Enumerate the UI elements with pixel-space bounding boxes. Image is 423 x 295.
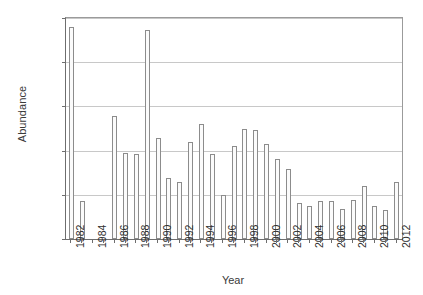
x-tick-label: 2012: [400, 225, 412, 248]
bar: [394, 182, 399, 239]
y-axis-title: Abundance: [16, 54, 28, 174]
x-tick-mark: [385, 239, 386, 243]
x-tick-label: 2002: [291, 225, 303, 248]
y-tick-mark: [62, 18, 66, 19]
x-tick-mark: [233, 239, 234, 243]
x-tick-mark: [320, 239, 321, 243]
x-tick-mark: [146, 239, 147, 243]
bar: [177, 182, 182, 239]
x-tick-mark: [81, 239, 82, 243]
x-tick-mark: [103, 239, 104, 243]
x-axis-title: Year: [65, 274, 401, 286]
x-tick-mark: [92, 239, 93, 243]
bar: [112, 116, 117, 239]
x-tick-mark: [114, 239, 115, 243]
x-tick-mark: [374, 239, 375, 243]
bar: [307, 206, 312, 239]
x-tick-mark: [157, 239, 158, 243]
bar: [156, 138, 161, 239]
x-tick-label: 1996: [226, 225, 238, 248]
x-tick-mark: [352, 239, 353, 243]
x-tick-mark: [244, 239, 245, 243]
bar: [372, 206, 377, 239]
bar: [264, 144, 269, 239]
x-tick-mark: [276, 239, 277, 243]
y-tick-mark: [62, 195, 66, 196]
x-tick-mark: [331, 239, 332, 243]
x-tick-label: 2004: [313, 225, 325, 248]
x-tick-mark: [190, 239, 191, 243]
x-tick-mark: [298, 239, 299, 243]
x-tick-mark: [135, 239, 136, 243]
x-tick-mark: [222, 239, 223, 243]
plot-area: 020 00040 00060 00080 000100 000: [65, 17, 403, 240]
bar: [351, 200, 356, 239]
x-tick-mark: [70, 239, 71, 243]
x-tick-mark: [266, 239, 267, 243]
x-tick-label: 2008: [356, 225, 368, 248]
bar: [145, 30, 150, 239]
x-tick-label: 1990: [161, 225, 173, 248]
bar: [242, 129, 247, 239]
x-tick-mark: [179, 239, 180, 243]
x-tick-label: 1984: [96, 225, 108, 248]
x-tick-label: 1982: [74, 225, 86, 248]
abundance-by-year-bar-chart: Abundance 020 00040 00060 00080 000100 0…: [0, 0, 423, 295]
x-tick-label: 2006: [335, 225, 347, 248]
bar: [69, 27, 74, 239]
x-tick-mark: [396, 239, 397, 243]
x-tick-mark: [168, 239, 169, 243]
x-tick-mark: [287, 239, 288, 243]
x-tick-label: 1992: [183, 225, 195, 248]
bar: [199, 124, 204, 239]
y-tick-mark: [62, 62, 66, 63]
x-tick-label: 2010: [378, 225, 390, 248]
gridline: [66, 106, 402, 107]
x-tick-label: 1998: [248, 225, 260, 248]
bar: [221, 195, 226, 239]
x-tick-label: 2000: [270, 225, 282, 248]
x-tick-mark: [200, 239, 201, 243]
y-tick-mark: [62, 151, 66, 152]
x-tick-mark: [255, 239, 256, 243]
x-tick-mark: [363, 239, 364, 243]
x-tick-mark: [341, 239, 342, 243]
bar: [253, 130, 258, 239]
x-tick-label: 1994: [204, 225, 216, 248]
x-tick-label: 1986: [118, 225, 130, 248]
y-tick-mark: [62, 106, 66, 107]
x-tick-mark: [125, 239, 126, 243]
x-tick-mark: [309, 239, 310, 243]
x-tick-label: 1988: [139, 225, 151, 248]
gridline: [66, 62, 402, 63]
x-axis-tick-container: 1982198419861988199019921994199619982000…: [65, 239, 401, 275]
gridline: [66, 18, 402, 19]
bar: [286, 169, 291, 239]
bar: [329, 201, 334, 239]
x-tick-mark: [211, 239, 212, 243]
